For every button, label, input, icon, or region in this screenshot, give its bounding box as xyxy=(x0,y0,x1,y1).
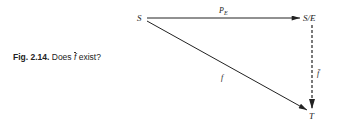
node-t: T xyxy=(309,111,315,121)
map-f-arrow xyxy=(147,21,307,110)
node-quotient: S/E xyxy=(303,13,316,23)
induced-fbar-label: f̄ xyxy=(317,69,321,78)
map-f-label: f xyxy=(221,73,225,82)
commutative-diagram: S PE S/E f f̄ T xyxy=(0,0,337,121)
node-s: S xyxy=(137,13,142,23)
projection-label: PE xyxy=(218,6,228,16)
